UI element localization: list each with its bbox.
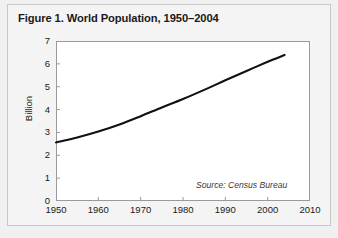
source-note: Source: Census Bureau (196, 180, 287, 190)
y-tick-label: 3 (36, 127, 50, 137)
y-tick-label: 4 (36, 105, 50, 115)
y-tick-label: 1 (36, 173, 50, 183)
x-tick-label: 1960 (78, 205, 118, 215)
plot-area (56, 41, 310, 201)
y-tick-label: 7 (36, 36, 50, 46)
page-title: Figure 1. World Population, 1950–2004 (18, 12, 219, 24)
y-tick-label: 2 (36, 150, 50, 160)
x-tick-label: 1970 (121, 205, 161, 215)
x-tick-label: 2010 (290, 205, 330, 215)
x-tick-label: 1980 (163, 205, 203, 215)
figure-container: Figure 1. World Population, 1950–2004 Bi… (0, 0, 338, 238)
x-tick-label: 1950 (36, 205, 76, 215)
y-tick-label: 6 (36, 59, 50, 69)
y-tick-label: 5 (36, 82, 50, 92)
x-tick-label: 1990 (205, 205, 245, 215)
y-axis-label: Billion (23, 79, 34, 139)
x-tick-label: 2000 (248, 205, 288, 215)
